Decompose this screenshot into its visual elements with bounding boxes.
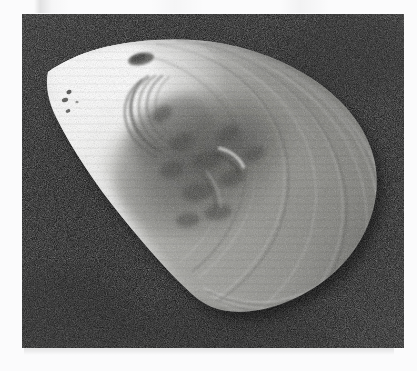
page-root	[0, 0, 417, 371]
shell-photograph	[22, 14, 404, 348]
scan-artifact-top	[0, 0, 417, 13]
scan-artifact-bottom	[24, 348, 394, 355]
photo-grain-overlay	[22, 14, 404, 348]
shell-photo-canvas	[22, 14, 404, 348]
